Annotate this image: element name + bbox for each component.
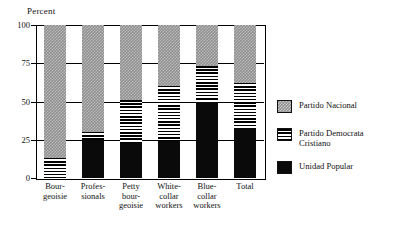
legend-label: Partido Nacional <box>299 100 364 110</box>
bar-segment-up <box>196 102 218 179</box>
bar-segment-pdc <box>120 100 142 143</box>
bar-segment-nac <box>44 25 66 158</box>
legend-swatch-nac <box>277 100 292 113</box>
x-axis-label-line: Total <box>222 182 268 192</box>
bar-segment-pdc <box>44 158 66 178</box>
legend-label-line: Partido Nacional <box>299 100 364 110</box>
bar-segment-up <box>158 141 180 178</box>
bar-column <box>82 25 104 178</box>
legend-label-line: Unidad Popular <box>299 161 364 171</box>
bar-segment-pdc <box>196 66 218 101</box>
bar-column <box>44 25 66 178</box>
bar-segment-nac <box>82 25 104 132</box>
legend-label: Unidad Popular <box>299 161 364 171</box>
legend-item-pdc: Partido DemocrataCristiano <box>277 128 364 148</box>
bar-segment-up <box>234 128 256 178</box>
x-axis-label: Total <box>222 182 268 192</box>
gridline-25 <box>36 140 264 141</box>
plot-frame <box>36 25 266 180</box>
gridline-50 <box>36 102 264 103</box>
y-tick-label-50: 50 <box>8 97 30 107</box>
y-tick-label-0: 0 <box>8 173 30 183</box>
bar-segment-nac <box>234 25 256 83</box>
bar-column <box>234 25 256 178</box>
y-tick-label-100: 100 <box>8 20 30 30</box>
y-tick-0 <box>31 178 36 179</box>
legend-label-line: Cristiano <box>299 138 364 148</box>
bar-segment-up <box>82 140 104 178</box>
legend-label: Partido DemocrataCristiano <box>299 128 364 148</box>
bar-segment-nac <box>196 25 218 66</box>
bar-segment-nac <box>120 25 142 100</box>
bar-segment-pdc <box>234 83 256 127</box>
bar-column <box>120 25 142 178</box>
bar-segment-pdc <box>158 86 180 141</box>
bar-column <box>196 25 218 178</box>
chart-figure: Percent 0255075100 Bour-geoisieProfes-si… <box>0 0 397 234</box>
bar-segment-pdc <box>82 132 104 140</box>
legend-item-nac: Partido Nacional <box>277 100 364 115</box>
legend-item-up: Unidad Popular <box>277 161 364 176</box>
x-axis-label-line: workers <box>184 201 230 211</box>
bar-segment-nac <box>158 25 180 86</box>
legend-swatch-pdc <box>277 128 292 141</box>
y-tick-100 <box>31 25 36 26</box>
chart-legend: Partido NacionalPartido DemocrataCristia… <box>277 100 364 189</box>
y-tick-label-25: 25 <box>8 135 30 145</box>
bar-segment-up <box>120 143 142 178</box>
y-tick-label-75: 75 <box>8 58 30 68</box>
y-axis-title: Percent <box>27 6 55 16</box>
legend-label-line: Partido Democrata <box>299 128 364 138</box>
bar-column <box>158 25 180 178</box>
legend-swatch-up <box>277 161 292 174</box>
gridline-75 <box>36 63 264 64</box>
